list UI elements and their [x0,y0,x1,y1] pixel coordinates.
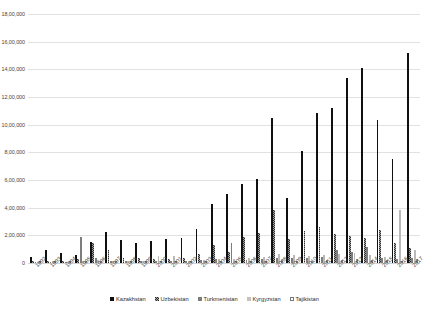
y-axis-tick-label: 0 [0,260,25,266]
y-axis-tick-label: 18,00,000 [0,11,25,17]
bar-group [134,14,149,263]
bar-group [194,14,209,263]
bar-group [73,14,88,263]
bar-group [405,14,420,263]
bar-group [43,14,58,263]
bar-groups [28,14,420,263]
bar-group [118,14,133,263]
legend-label: Kyrgyzstan [252,296,280,302]
chart-legend: KazakhstanUzbekistanTurkmenistanKyrgyzst… [0,296,429,302]
bar-group [179,14,194,263]
y-axis: 18,00,00016,00,00014,00,00012,00,00010,0… [0,0,28,313]
bar-group [224,14,239,263]
x-axis: 1992199319941995199619971998199920002001… [28,264,420,298]
bar-group [360,14,375,263]
bar-group [269,14,284,263]
bar-group [375,14,390,263]
bar-group [299,14,314,263]
bar-group [28,14,43,263]
bar-group [164,14,179,263]
bar [399,210,401,263]
bar-group [103,14,118,263]
legend-swatch-icon [155,297,159,301]
legend-item-kyrgyzstan[interactable]: Kyrgyzstan [247,296,281,302]
bar-group [239,14,254,263]
legend-item-turkmenistan[interactable]: Turkmenistan [198,296,238,302]
bar-chart: 18,00,00016,00,00014,00,00012,00,00010,0… [0,0,429,313]
y-axis-tick-label: 6,00,000 [0,177,25,183]
bar-group [390,14,405,263]
legend-label: Turkmenistan [203,296,237,302]
y-axis-tick-label: 12,00,000 [0,94,25,100]
legend-swatch-icon [290,297,294,301]
bar [80,237,82,263]
bar-group [284,14,299,263]
legend-item-tajikistan[interactable]: Tajikistan [290,296,319,302]
bar-group [209,14,224,263]
y-axis-tick-label: 10,00,000 [0,122,25,128]
y-axis-tick-label: 4,00,000 [0,205,25,211]
legend-label: Tajikistan [295,296,318,302]
bar-group [254,14,269,263]
legend-swatch-icon [198,297,202,301]
y-axis-tick-label: 16,00,000 [0,39,25,45]
bar [346,78,348,263]
legend-swatch-icon [110,297,114,301]
bar-group [345,14,360,263]
y-axis-tick-label: 14,00,000 [0,66,25,72]
legend-item-kazakhstan[interactable]: Kazakhstan [110,296,146,302]
bar-group [314,14,329,263]
legend-label: Uzbekistan [161,296,189,302]
bar-group [58,14,73,263]
legend-item-uzbekistan[interactable]: Uzbekistan [155,296,189,302]
legend-swatch-icon [247,297,251,301]
y-axis-tick-label: 8,00,000 [0,149,25,155]
bar-group [330,14,345,263]
legend-label: Kazakhstan [116,296,146,302]
y-axis-tick-label: 2,00,000 [0,232,25,238]
bar-group [149,14,164,263]
bar [273,210,275,263]
plot-area [28,14,420,263]
bar [407,53,409,263]
bar-group [88,14,103,263]
bar [361,68,363,263]
